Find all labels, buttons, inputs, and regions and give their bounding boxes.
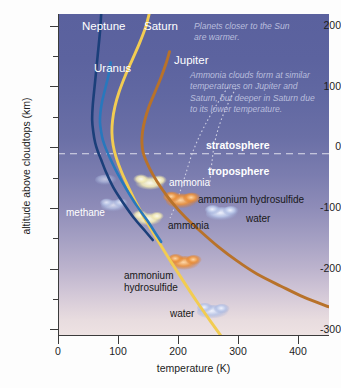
y-tick-label-neg300: -300 <box>297 323 341 335</box>
x-tick-label-200: 200 <box>158 345 198 357</box>
x-tick-label-400: 400 <box>278 345 318 357</box>
x-tick-100 <box>118 336 119 344</box>
annotation-ammonia-clouds: Ammonia clouds form at similar temperatu… <box>190 70 318 115</box>
x-tick-0 <box>58 336 59 344</box>
x-tick-label-300: 300 <box>218 345 258 357</box>
y-tick-neg200 <box>50 269 59 270</box>
y-tick-minor-50 <box>53 117 59 118</box>
y-tick-label-200: 200 <box>297 19 341 31</box>
annotation-sun-warmth: Planets closer to the Sun are warmer. <box>194 21 302 44</box>
y-tick-minor-150 <box>53 56 59 57</box>
y-tick-neg100 <box>50 208 59 209</box>
cloud-label-methane: methane <box>66 207 105 219</box>
x-tick-label-100: 100 <box>98 345 138 357</box>
y-axis-title: altitude above cloudtops (km) <box>20 56 32 276</box>
cloud-label-jupiter-ammonium-hydrosulfide: ammonium hydrosulfide <box>198 194 304 206</box>
y-tick-0 <box>50 147 59 148</box>
cloud-label-saturn-ammonium-hydrosulfide: ammonium hydrosulfide <box>124 270 188 294</box>
y-tick-100 <box>50 86 59 87</box>
cloud-label-saturn-water: water <box>170 308 194 320</box>
y-tick-label-neg100: -100 <box>297 201 341 213</box>
y-tick-label-neg200: -200 <box>297 262 341 274</box>
cloud-label-jupiter-water: water <box>246 213 270 225</box>
cloud-label-saturn-ammonia: ammonia <box>168 220 209 232</box>
x-tick-300 <box>238 336 239 344</box>
curve-label-jupiter: Jupiter <box>174 54 209 66</box>
y-tick-label-100: 100 <box>297 80 341 92</box>
y-tick-label-0: 0 <box>297 140 341 152</box>
y-tick-200 <box>50 26 59 27</box>
x-axis-title: temperature (K) <box>58 362 329 374</box>
y-tick-neg300 <box>50 329 59 330</box>
layer-label-troposphere: troposphere <box>208 165 269 177</box>
y-tick-minor-neg250 <box>53 299 59 300</box>
layer-label-stratosphere: stratosphere <box>206 139 270 151</box>
curve-label-uranus: Uranus <box>94 62 131 74</box>
curve-label-neptune: Neptune <box>82 20 125 32</box>
plot-area: Neptune Saturn Jupiter Uranus stratosphe… <box>58 14 329 336</box>
x-tick-200 <box>178 336 179 344</box>
x-tick-label-0: 0 <box>38 345 78 357</box>
chart-figure: Neptune Saturn Jupiter Uranus stratosphe… <box>0 0 341 388</box>
cloud-label-jupiter-ammonia: ammonia <box>169 177 210 189</box>
y-tick-minor-neg50 <box>53 178 59 179</box>
y-tick-minor-neg150 <box>53 238 59 239</box>
curve-label-saturn: Saturn <box>144 20 178 32</box>
x-tick-400 <box>298 336 299 344</box>
